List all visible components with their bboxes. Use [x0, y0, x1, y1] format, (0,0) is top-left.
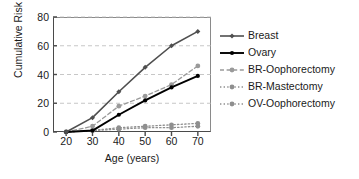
data-point-marker [230, 67, 235, 72]
data-point-marker [90, 128, 94, 132]
chart-figure: Cumulative Risk 806040200 203040506070 A… [0, 0, 359, 179]
legend-item-label: BR-Oophorectomy [248, 64, 335, 75]
y-tick-label: 60 [0, 41, 49, 52]
x-tick-label: 70 [183, 136, 213, 147]
data-point-marker [143, 98, 147, 102]
y-tick-label: 0 [0, 127, 49, 138]
legend-item-br-mastectomy[interactable]: BR-Mastectomy [219, 78, 359, 95]
data-point-marker [143, 94, 148, 99]
data-point-marker [195, 63, 200, 68]
data-point-marker [143, 124, 148, 129]
legend-item-ov-oophorectomy[interactable]: OV-Oophorectomy [219, 95, 359, 112]
legend-swatch-icon [219, 63, 245, 77]
series-breast [64, 29, 201, 135]
y-tick-label: 20 [0, 98, 49, 109]
data-point-marker [169, 85, 173, 89]
data-point-marker [116, 125, 121, 130]
data-point-marker [230, 84, 235, 89]
legend-swatch-icon [219, 29, 245, 43]
legend-item-label: BR-Mastectomy [248, 81, 323, 92]
legend-swatch-icon [219, 46, 245, 60]
data-point-marker [169, 122, 174, 127]
chart-canvas [53, 17, 211, 132]
data-point-marker [117, 113, 121, 117]
x-axis-label: Age (years) [53, 152, 211, 164]
legend-swatch-icon [219, 97, 245, 111]
data-point-marker [230, 101, 235, 106]
series-br-mastectomy [64, 124, 200, 135]
plot-area [53, 17, 211, 132]
legend-item-breast[interactable]: Breast [219, 27, 359, 44]
data-point-marker [196, 74, 200, 78]
legend-item-label: OV-Oophorectomy [248, 98, 335, 109]
data-point-marker [195, 121, 200, 126]
data-point-marker [230, 33, 235, 38]
legend-item-label: Breast [248, 30, 278, 41]
series-line [66, 31, 198, 132]
legend-item-br-oophorectomy[interactable]: BR-Oophorectomy [219, 61, 359, 78]
data-point-marker [116, 104, 121, 109]
legend-item-ovary[interactable]: Ovary [219, 44, 359, 61]
series-line [66, 76, 198, 132]
y-tick-label: 80 [0, 12, 49, 23]
chart-legend: BreastOvaryBR-OophorectomyBR-MastectomyO… [219, 27, 359, 112]
y-tick-label: 40 [0, 70, 49, 81]
series-ovary [64, 74, 200, 134]
legend-item-label: Ovary [248, 47, 276, 58]
data-point-marker [90, 124, 95, 129]
data-point-marker [230, 50, 234, 54]
legend-swatch-icon [219, 80, 245, 94]
